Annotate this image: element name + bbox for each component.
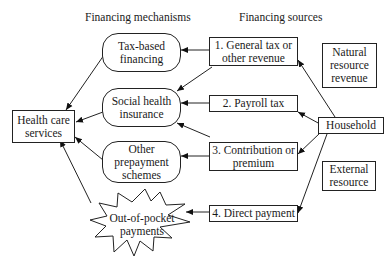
mechanism-tax-based-financing: Tax-based financing [102,33,181,72]
source-payroll-tax: 2. Payroll tax [209,95,298,112]
source-label: 1. General tax or other revenue [215,39,292,65]
source-contribution-premium: 3. Contribution or premium [209,142,298,171]
mechanism-label: Tax-based financing [118,40,165,66]
mechanism-social-health-insurance: Social health insurance [102,88,181,127]
source-label: 3. Contribution or premium [212,144,295,170]
origin-household: Household [318,117,384,134]
mechanism-label: Other prepayment schemes [114,143,168,182]
origin-label: External resource [330,163,369,189]
health-care-services-label: Health care services [17,114,70,140]
origin-external-resource: External resource [322,161,376,191]
source-direct-payment: 4. Direct payment [209,205,298,222]
source-label: 4. Direct payment [212,207,295,220]
origin-label: Household [326,119,376,132]
health-care-services-box: Health care services [12,110,75,143]
source-label: 2. Payroll tax [223,97,285,110]
mechanism-label: Social health insurance [112,95,172,121]
header-financing-mechanisms: Financing mechanisms [85,11,191,23]
source-general-tax: 1. General tax or other revenue [209,37,298,66]
origin-natural-resource-revenue: Natural resource revenue [322,43,377,88]
mechanism-out-of-pocket-payments: Out-of-pocket payments [102,212,182,238]
origin-label: Natural resource revenue [330,46,369,85]
header-financing-sources: Financing sources [239,11,322,23]
mechanism-other-prepayment-schemes: Other prepayment schemes [102,141,181,183]
